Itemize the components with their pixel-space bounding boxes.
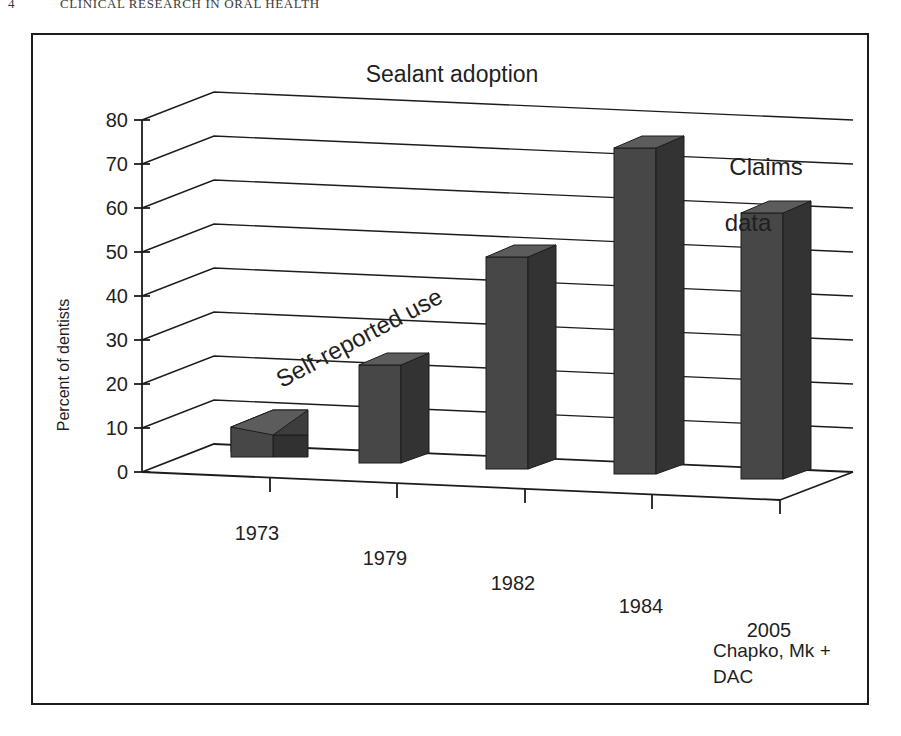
bar-1973-side — [273, 435, 308, 457]
x-tick-label-2005: 2005 — [747, 619, 792, 641]
gridline-60 — [142, 180, 853, 208]
source-note-line2: DAC — [713, 666, 753, 687]
x-tick-label-1979: 1979 — [363, 547, 408, 569]
x-tick-label-1973: 1973 — [235, 522, 280, 544]
bar-1982-front — [486, 257, 528, 469]
bar-1973 — [231, 410, 308, 457]
x-tick-label-1982: 1982 — [491, 572, 536, 594]
y-tick-label-20: 20 — [106, 373, 128, 395]
bar-1979 — [359, 353, 429, 463]
annotation-claims-line1: Claims — [729, 153, 802, 180]
bar-2005-front — [741, 213, 783, 479]
bar-1984 — [614, 136, 684, 474]
annotation-claims-line2: data — [725, 209, 772, 236]
bar-2005 — [741, 201, 811, 479]
y-tick-label-40: 40 — [106, 285, 128, 307]
y-tick-label-70: 70 — [106, 153, 128, 175]
gridline-80 — [142, 92, 853, 120]
y-tick-label-10: 10 — [106, 417, 128, 439]
source-note-line1: Chapko, Mk + — [713, 640, 831, 661]
x-tick-label-1984: 1984 — [619, 595, 664, 617]
y-tick-label-0: 0 — [117, 461, 128, 483]
running-head-title: CLINICAL RESEARCH IN ORAL HEALTH — [60, 0, 320, 12]
page-folio: 4 — [8, 0, 15, 12]
sealant-adoption-chart: Sealant adoption Percent of dentists 80 … — [33, 35, 871, 707]
bar-1984-front — [614, 148, 656, 474]
y-tick-label-30: 30 — [106, 329, 128, 351]
x-axis-line — [142, 472, 780, 500]
figure-frame: Sealant adoption Percent of dentists 80 … — [31, 33, 869, 705]
y-tick-label-50: 50 — [106, 241, 128, 263]
bar-1984-side — [656, 136, 684, 474]
y-axis-title: Percent of dentists — [55, 299, 72, 432]
bar-1982 — [486, 245, 556, 469]
bar-2005-side — [783, 201, 811, 479]
chart-title: Sealant adoption — [366, 61, 539, 87]
y-tick-label-60: 60 — [106, 197, 128, 219]
bar-1982-side — [528, 245, 556, 469]
running-head: 4 CLINICAL RESEARCH IN ORAL HEALTH — [0, 0, 901, 12]
y-tick-label-80: 80 — [106, 109, 128, 131]
bar-1979-front — [359, 365, 401, 463]
bar-1979-side — [401, 353, 429, 463]
